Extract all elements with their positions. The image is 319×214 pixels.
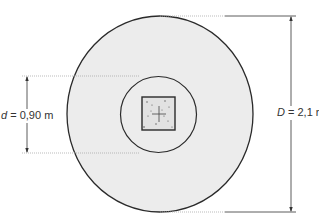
D-symbol: D xyxy=(277,106,285,118)
d-arrow-top xyxy=(25,76,28,81)
d-label: d = 0,90 m xyxy=(1,109,53,121)
d-arrow-bottom xyxy=(25,148,28,153)
D-arrow-top xyxy=(289,16,292,21)
d-value: = 0,90 m xyxy=(7,109,53,121)
D-arrow-bottom xyxy=(289,207,292,212)
foundation-diagram xyxy=(0,0,319,214)
D-label: D = 2,1 m xyxy=(277,106,319,118)
D-value: = 2,1 m xyxy=(285,106,319,118)
